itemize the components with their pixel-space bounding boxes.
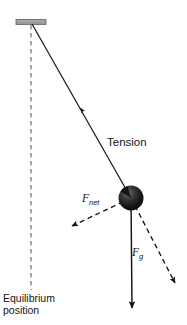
f-net-symbol: F: [82, 192, 89, 204]
pendulum-bob: [119, 186, 144, 211]
f-net-label: Fnet: [82, 192, 99, 205]
f-net-subscript: net: [89, 198, 99, 207]
tension-arrowhead-segment: [82, 110, 96, 134]
ceiling-support: [16, 20, 46, 25]
pendulum-force-diagram: Tension Fnet Fg Equilibriumposition: [0, 0, 187, 325]
equilibrium-position-label: Equilibriumposition: [3, 292, 65, 316]
pendulum-string: [32, 24, 131, 198]
equilibrium-label-line1: Equilibrium: [3, 292, 55, 304]
diagram-canvas: [0, 0, 187, 325]
f-g-symbol: F: [132, 246, 139, 258]
f-g-subscript: g: [139, 252, 143, 261]
radial-component-vector: [131, 198, 175, 283]
equilibrium-label-line2: position: [3, 304, 39, 316]
f-g-label: Fg: [132, 246, 143, 259]
tension-label: Tension: [107, 136, 147, 149]
